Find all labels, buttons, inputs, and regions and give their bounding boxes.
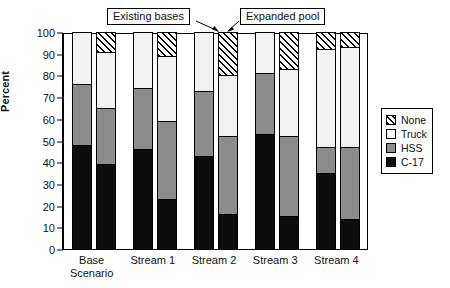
y-tick-label: 90 [21,49,55,61]
white-swatch-icon [386,129,396,139]
legend-item-hss: HSS [386,141,427,155]
y-tick-label: 20 [21,201,55,213]
legend-label: Truck [401,128,427,140]
black-swatch-icon [386,157,396,167]
bar-segment-truck [255,32,275,73]
x-tick-label: Stream 3 [253,254,298,267]
x-tick-line1: Stream 3 [253,254,298,267]
bar-segment-truck [133,32,153,88]
x-tick-line1: Base [70,254,113,267]
bar-segment-hss [340,147,360,219]
bar-segment-truck [279,69,299,136]
bar-segment-hss [279,136,299,216]
bar-segment-c17 [255,134,275,249]
y-tick-label: 100 [21,27,55,39]
bar-segment-none [340,32,360,47]
y-axis-ticks: 1009080706050403020100 [0,0,55,288]
bar-segment-c17 [72,145,92,249]
bar-segment-hss [96,108,116,164]
y-tick-label: 50 [21,136,55,148]
y-tick-label: 40 [21,157,55,169]
x-tick-line2: Scenario [70,267,113,280]
stacked-bar [279,32,299,249]
x-tick-line1: Stream 1 [130,254,175,267]
bar-segment-hss [72,84,92,145]
legend-label: C-17 [401,156,424,168]
chart-legend: None Truck HSS C-17 [381,108,433,174]
x-tick-line1: Stream 4 [314,254,359,267]
stacked-bar [194,32,214,249]
bar-segment-c17 [340,219,360,249]
plot-area [62,33,368,250]
bar-segment-hss [157,121,177,199]
bar-segment-truck [316,49,336,147]
bar-segment-hss [194,91,214,156]
bar-segment-truck [96,52,116,108]
bar-segment-c17 [218,214,238,249]
x-tick-label: BaseScenario [70,254,113,280]
y-tick-label: 70 [21,92,55,104]
y-tick-label: 0 [21,244,55,256]
x-tick-label: Stream 4 [314,254,359,267]
bar-segment-hss [218,136,238,214]
y-tick-label: 30 [21,179,55,191]
y-tick-label: 10 [21,222,55,234]
x-tick-line1: Stream 2 [192,254,237,267]
bar-segment-hss [316,147,336,173]
x-tick-label: Stream 1 [130,254,175,267]
bar-segment-c17 [157,199,177,249]
bar-segment-c17 [279,216,299,249]
legend-item-c17: C-17 [386,155,427,169]
hatch-swatch-icon [386,115,396,125]
bar-segment-none [316,32,336,49]
bar-segment-hss [133,88,153,149]
legend-item-truck: Truck [386,127,427,141]
bar-segment-none [279,32,299,69]
stacked-bar [72,32,92,249]
y-tick-label: 60 [21,114,55,126]
y-tick-label: 80 [21,70,55,82]
callout-expanded-pool: Expanded pool [240,8,325,25]
bar-segment-truck [157,56,177,121]
stacked-bar [218,32,238,249]
bar-segment-none [157,32,177,56]
stacked-bar [340,32,360,249]
chart-figure: Percent 1009080706050403020100 BaseScena… [0,0,450,288]
stacked-bar [316,32,336,249]
bar-segment-truck [72,32,92,84]
bar-segment-c17 [133,149,153,249]
bar-segment-c17 [316,173,336,249]
stacked-bar [255,32,275,249]
callout-existing-bases: Existing bases [107,8,190,25]
bar-segment-c17 [194,156,214,249]
legend-item-none: None [386,113,427,127]
gray-swatch-icon [386,143,396,153]
stacked-bar [96,32,116,249]
x-tick-label: Stream 2 [192,254,237,267]
bar-segment-none [218,32,238,75]
bar-segment-truck [194,32,214,91]
stacked-bar [133,32,153,249]
bar-segment-hss [255,73,275,134]
bar-segment-none [96,32,116,52]
bar-segment-truck [340,47,360,147]
bar-segment-truck [218,75,238,136]
legend-label: HSS [401,142,423,154]
stacked-bar [157,32,177,249]
bar-segment-c17 [96,164,116,249]
legend-label: None [401,114,426,126]
